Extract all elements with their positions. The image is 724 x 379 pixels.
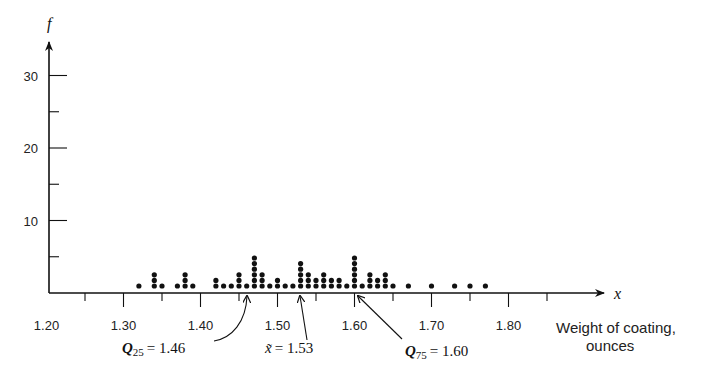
data-dot (452, 283, 457, 288)
data-dot (152, 278, 157, 283)
data-dot (367, 283, 372, 288)
data-dot (236, 283, 241, 288)
data-dot (229, 283, 234, 288)
data-dot (267, 283, 272, 288)
x-ticks: 1.201.301.401.501.601.701.80 (34, 293, 547, 333)
data-dot (313, 283, 318, 288)
data-dot (183, 272, 188, 277)
data-dot (313, 278, 318, 283)
data-dot (429, 283, 434, 288)
x-axis-label-line2: ounces (586, 337, 634, 354)
data-dot (337, 283, 342, 288)
y-ticks: 102030 (24, 69, 67, 257)
axes: f x (47, 15, 621, 302)
data-dot (298, 267, 303, 272)
data-dot (275, 283, 280, 288)
data-dot (213, 283, 218, 288)
data-dot (244, 283, 249, 288)
data-dot (383, 283, 388, 288)
data-dot (183, 283, 188, 288)
data-dot (306, 272, 311, 277)
y-tick-label: 10 (24, 214, 38, 229)
data-dot (383, 278, 388, 283)
x-tick-label: 1.70 (419, 318, 444, 333)
data-dot (321, 278, 326, 283)
x-tick-label: 1.40 (188, 318, 213, 333)
x-tick-label: 1.50 (265, 318, 290, 333)
data-dot (406, 283, 411, 288)
data-dot (183, 278, 188, 283)
data-dot (367, 278, 372, 283)
data-dot (352, 283, 357, 288)
q75-label: Q75= 1.60 (405, 343, 468, 361)
x-axis-variable: x (613, 285, 621, 302)
q25-arrow (214, 296, 247, 341)
data-dot (298, 272, 303, 277)
data-dot (321, 272, 326, 277)
data-dot (136, 283, 141, 288)
data-dot (260, 272, 265, 277)
data-dot (236, 272, 241, 277)
data-dot (344, 283, 349, 288)
data-dot (298, 283, 303, 288)
data-dot (367, 272, 372, 277)
data-dot (252, 267, 257, 272)
data-dot (252, 255, 257, 260)
data-dot (275, 278, 280, 283)
data-dot (283, 283, 288, 288)
data-dot (306, 283, 311, 288)
data-dot (352, 272, 357, 277)
data-dot (467, 283, 472, 288)
data-dot (190, 283, 195, 288)
data-dot (175, 283, 180, 288)
data-dot (352, 267, 357, 272)
median-label: x̃= 1.53 (264, 340, 313, 356)
data-dot (375, 278, 380, 283)
data-dot (252, 283, 257, 288)
data-dot (260, 283, 265, 288)
data-dot (360, 283, 365, 288)
data-dot (352, 278, 357, 283)
data-dot (483, 283, 488, 288)
data-dot (337, 278, 342, 283)
x-axis-label-line1: Weight of coating, (556, 319, 676, 336)
y-tick-label: 20 (24, 141, 38, 156)
x-axis-label: Weight of coating, ounces (556, 319, 676, 354)
data-dot (252, 261, 257, 266)
quartile-annotations: Q25= 1.46 x̃= 1.53 Q75= 1.60 (122, 296, 468, 361)
data-dot (152, 272, 157, 277)
x-tick-label: 1.80 (496, 318, 521, 333)
data-dot (252, 278, 257, 283)
data-dot (306, 278, 311, 283)
data-dot (329, 278, 334, 283)
y-tick-label: 30 (24, 69, 38, 84)
data-dot (260, 278, 265, 283)
data-dots (136, 255, 488, 288)
data-dot (221, 283, 226, 288)
data-dot (352, 261, 357, 266)
dot-plot-chart: f x 102030 1.201.301.401.501.601.701.80 … (0, 0, 724, 379)
x-tick-label: 1.60 (342, 318, 367, 333)
x-tick-label: 1.30 (111, 318, 136, 333)
data-dot (152, 283, 157, 288)
data-dot (390, 283, 395, 288)
data-dot (321, 283, 326, 288)
q25-label: Q25= 1.46 (122, 340, 186, 358)
data-dot (290, 283, 295, 288)
median-arrow (300, 296, 307, 340)
data-dot (252, 272, 257, 277)
data-dot (383, 272, 388, 277)
x-tick-label: 1.20 (34, 318, 59, 333)
data-dot (352, 255, 357, 260)
data-dot (213, 278, 218, 283)
data-dot (236, 278, 241, 283)
data-dot (329, 283, 334, 288)
data-dot (375, 283, 380, 288)
data-dot (159, 283, 164, 288)
data-dot (298, 278, 303, 283)
data-dot (298, 261, 303, 266)
y-axis-variable: f (47, 15, 54, 33)
